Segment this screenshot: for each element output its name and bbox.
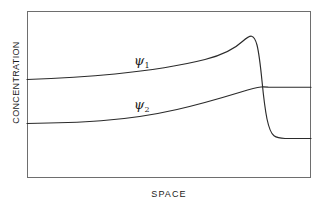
- curve-label-psi-2: ψ2: [134, 98, 150, 114]
- psi-1-symbol: ψ: [134, 53, 144, 68]
- curve-layer: [27, 11, 311, 178]
- curve-label-psi-1: ψ1: [134, 54, 150, 70]
- figure-root: ψ1 ψ2 CONCENTRATION SPACE: [0, 0, 323, 212]
- curve-psi-2: [27, 87, 311, 124]
- x-axis-title: SPACE: [27, 189, 311, 199]
- psi-2-subscript: 2: [144, 105, 149, 114]
- psi-2-symbol: ψ: [134, 97, 144, 112]
- y-axis-title: CONCENTRATION: [9, 0, 23, 166]
- psi-1-subscript: 1: [144, 61, 149, 70]
